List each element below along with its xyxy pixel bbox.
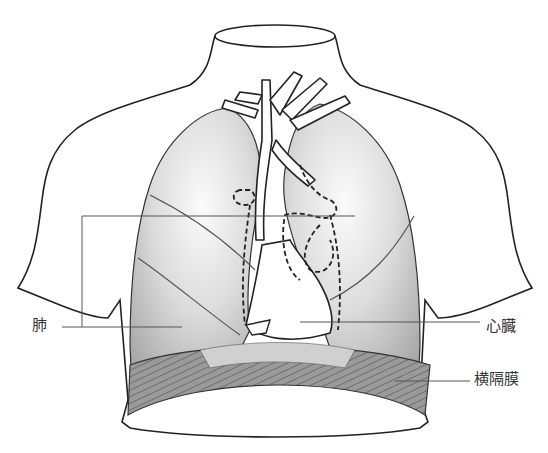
label-diaphragm: 横隔膜 — [474, 372, 519, 387]
label-heart: 心臓 — [486, 319, 516, 334]
label-lung: 肺 — [32, 318, 47, 333]
diagram-canvas: 肺 心臓 横隔膜 — [0, 0, 548, 453]
thorax-illustration — [0, 0, 548, 453]
